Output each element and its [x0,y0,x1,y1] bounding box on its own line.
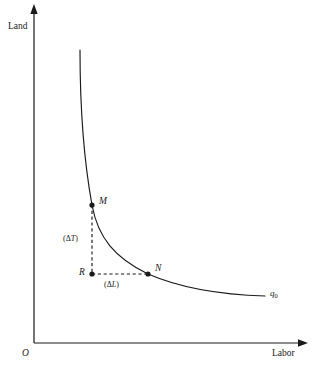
point-label-r: R [79,268,85,278]
point-label-n: N [155,264,161,274]
isoquant-curve [80,50,265,296]
delta-t-label: (ΔT) [63,235,78,243]
point-label-m: M [99,197,107,207]
y-axis-arrowhead [30,4,37,14]
curve-label-main: q [270,288,275,298]
origin-label: O [22,349,29,359]
isoquant-curve-label: q0 [270,289,278,298]
delta-l-close-paren: ) [116,280,119,289]
point-marker-m [89,202,94,207]
figure-canvas [0,0,312,375]
delta-t-close-paren: ) [75,234,78,243]
delta-l-label: (ΔL) [104,281,119,289]
x-axis-arrowhead [298,339,308,346]
y-axis-label: Land [8,22,28,32]
curve-label-subscript: 0 [275,292,278,299]
point-marker-n [145,271,150,276]
isoquant-figure: Land Labor O M N R (ΔT) (ΔL) q0 [0,0,312,375]
point-marker-r [89,271,94,276]
x-axis-label: Labor [272,349,295,359]
